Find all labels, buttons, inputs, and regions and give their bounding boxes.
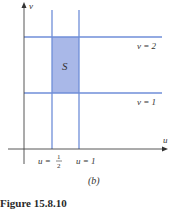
label-u-equals-half: u = (38, 156, 51, 166)
label-v-equals-1: v = 1 (137, 97, 156, 107)
figure-caption: Figure 15.8.10 (0, 197, 67, 209)
u-axis-label: u (163, 135, 168, 145)
v-axis-arrow-icon (22, 2, 27, 8)
subfigure-label: (b) (88, 175, 100, 187)
region-label: S (62, 60, 68, 72)
label-u-half-denominator: 2 (57, 162, 61, 170)
v-axis-label: v (29, 1, 33, 11)
label-u-half-numerator: 1 (57, 153, 61, 161)
u-axis-arrow-icon (162, 147, 168, 152)
diagram-canvas: v u S v = 2 v = 1 u = 1 2 u = 1 (b) (0, 0, 172, 214)
label-v-equals-2: v = 2 (137, 41, 157, 51)
label-u-equals-1: u = 1 (76, 156, 96, 166)
